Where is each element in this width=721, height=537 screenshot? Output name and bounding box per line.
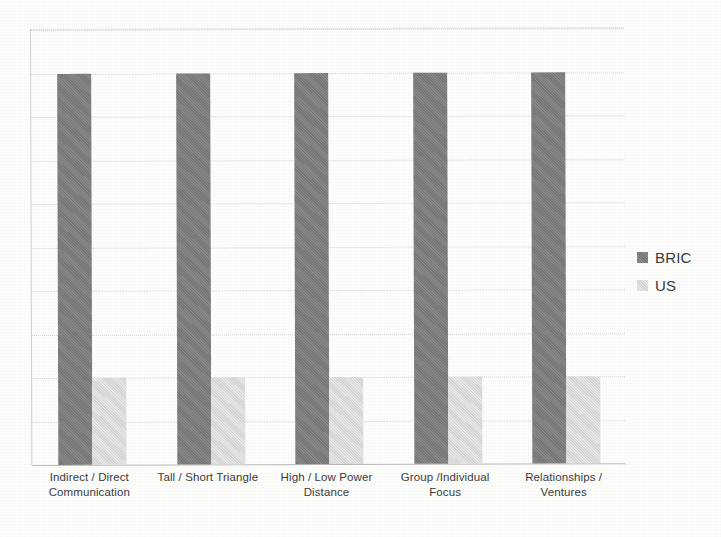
bar-bric-4	[413, 72, 448, 464]
bar-chart: Indirect / DirectCommunicationTall / Sho…	[0, 0, 721, 537]
bar-bric-3	[294, 73, 329, 465]
bar-us-3	[329, 377, 363, 464]
legend-item-us[interactable]: US	[637, 271, 717, 299]
bar-us-4	[448, 377, 482, 464]
category-label-5: Relationships /Ventures	[504, 470, 623, 500]
bar-us-5	[566, 376, 600, 463]
plot-area	[30, 27, 625, 465]
category-label-2: Tall / Short Triangle	[149, 470, 268, 485]
category-label-line: Ventures	[504, 485, 623, 500]
category-label-1: Indirect / DirectCommunication	[30, 470, 149, 500]
legend-label: BRIC	[655, 249, 692, 266]
category-label-line: High / Low Power	[267, 470, 386, 485]
category-label-line: Distance	[267, 485, 386, 500]
chart-legend: BRICUS	[637, 243, 717, 299]
category-label-line: Relationships /	[504, 470, 623, 485]
bars-layer	[31, 28, 625, 465]
legend-swatch-icon	[637, 280, 648, 291]
bar-bric-2	[176, 73, 211, 465]
legend-item-bric[interactable]: BRIC	[637, 243, 717, 271]
category-label-line: Group /Individual	[386, 470, 505, 485]
bar-bric-1	[57, 73, 92, 465]
bar-us-1	[92, 378, 126, 465]
legend-label: US	[655, 277, 676, 294]
bar-bric-5	[532, 72, 567, 464]
category-label-line: Tall / Short Triangle	[149, 470, 268, 485]
x-axis-category-labels: Indirect / DirectCommunicationTall / Sho…	[30, 470, 623, 520]
category-label-line: Indirect / Direct	[30, 470, 149, 485]
category-label-4: Group /IndividualFocus	[386, 470, 505, 500]
category-label-3: High / Low PowerDistance	[267, 470, 386, 500]
legend-swatch-icon	[637, 252, 648, 263]
bar-us-2	[211, 377, 245, 464]
category-label-line: Communication	[30, 485, 149, 500]
category-label-line: Focus	[386, 485, 505, 500]
